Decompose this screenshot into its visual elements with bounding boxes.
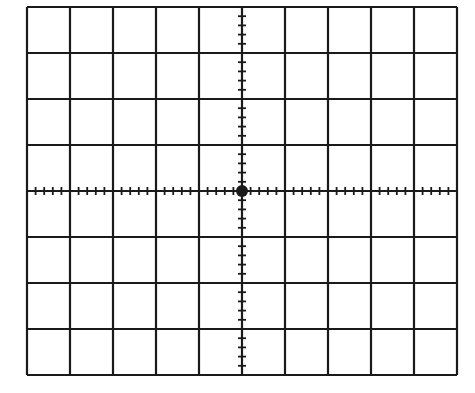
oscilloscope-graticule <box>0 0 475 393</box>
center-dot <box>236 185 248 197</box>
